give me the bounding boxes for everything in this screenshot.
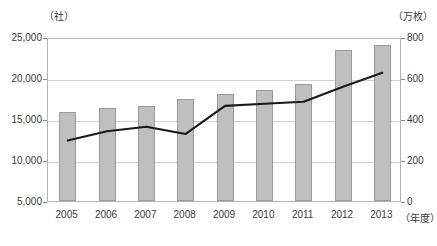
right-tick-label: 200 — [407, 156, 437, 166]
left-axis-unit-label: （社） — [44, 8, 74, 23]
left-tick-label: 20,000 — [0, 74, 42, 84]
x-axis-label: 2008 — [166, 209, 204, 220]
right-tick-label: 0 — [407, 197, 437, 207]
right-axis-unit-label: （万枚） — [393, 8, 433, 23]
line-series — [48, 39, 402, 203]
x-axis-label: 2005 — [48, 209, 86, 220]
chart-container: （社） （万枚） 25,00020,00015,00010,0005,000 8… — [0, 0, 437, 246]
left-tick-label: 25,000 — [0, 33, 42, 43]
x-axis-label: 2007 — [126, 209, 164, 220]
x-axis-label: 2009 — [205, 209, 243, 220]
right-tick-label: 400 — [407, 115, 437, 125]
right-tick-label: 600 — [407, 74, 437, 84]
x-axis-label: 2006 — [87, 209, 125, 220]
line-path — [68, 73, 383, 141]
right-tick-label: 800 — [407, 33, 437, 43]
plot-area — [47, 38, 401, 202]
left-tick-label: 10,000 — [0, 156, 42, 166]
x-axis-label: 2013 — [362, 209, 400, 220]
x-axis-label: 2010 — [244, 209, 282, 220]
x-axis-label: 2012 — [323, 209, 361, 220]
left-tick-label: 15,000 — [0, 115, 42, 125]
left-tick-label: 5,000 — [0, 197, 42, 207]
x-axis-label: 2011 — [284, 209, 322, 220]
x-axis-unit-label: （年度） — [400, 210, 437, 225]
left-tick-mark — [43, 202, 47, 203]
